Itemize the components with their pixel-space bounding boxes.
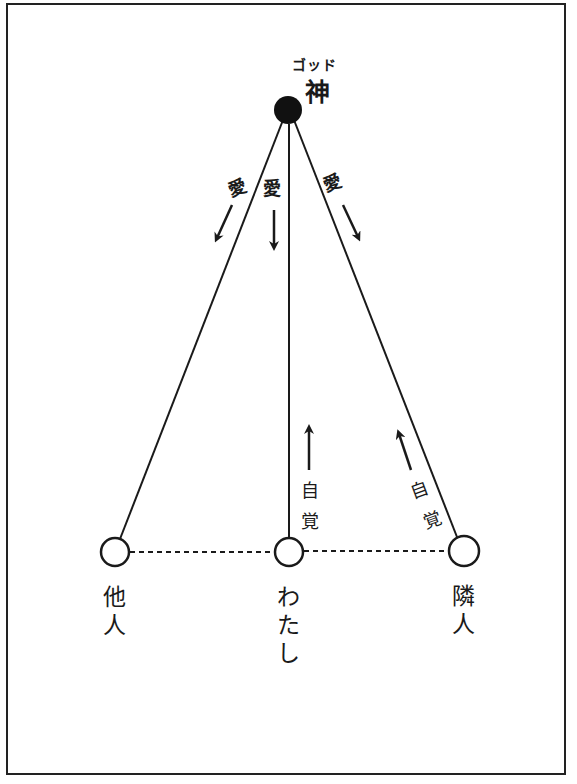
arrow-down-left-icon [217,205,232,238]
node-label-others-char-2: 人 [103,611,126,639]
awareness-label-middle-1: 自 [301,482,319,500]
arrow-down-right-icon [343,205,358,237]
line-god-to-neighbor [294,120,457,537]
arrow-up-left-icon [399,434,411,470]
node-label-me-char-3: し [277,639,300,667]
node-label-me-char-2: た [277,611,300,639]
node-me [275,538,303,566]
awareness-label-middle-2: 覚 [301,513,319,531]
node-label-me-char-1: わ [277,583,300,611]
god-label: 神 [305,80,330,105]
node-label-others: 他 人 [103,583,126,639]
node-others [101,538,129,566]
god-node [274,96,302,124]
node-label-neighbor: 隣 人 [452,582,475,638]
node-neighbor [449,536,479,566]
god-ruby-label: ゴッド [292,58,337,72]
node-label-neighbor-char-2: 人 [452,610,475,638]
line-god-to-others [120,120,283,539]
node-label-neighbor-char-1: 隣 [452,582,475,610]
node-label-me: わ た し [277,583,300,667]
love-label-middle: 愛 [263,180,281,198]
node-label-others-char-1: 他 [103,583,126,611]
